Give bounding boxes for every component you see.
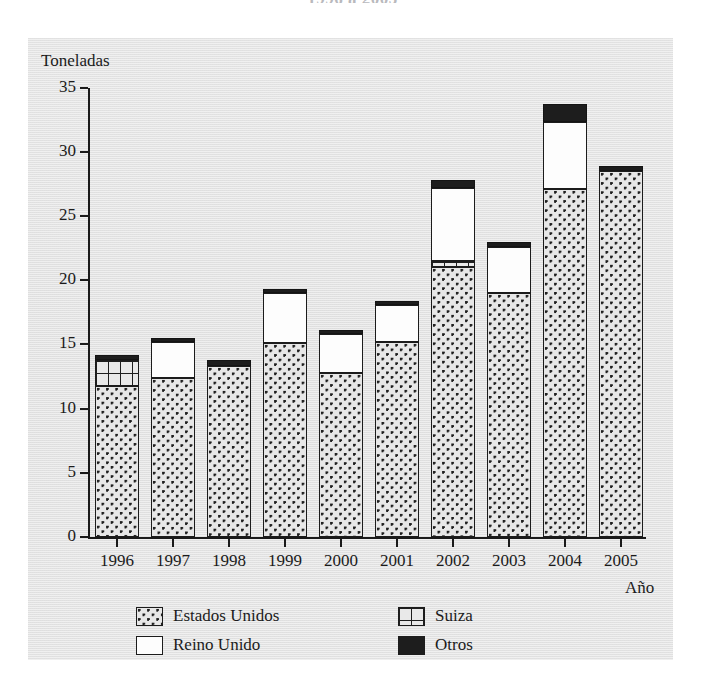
bar-segment-reino-unido [487,247,531,293]
bar-segment-otros [207,360,251,366]
chart-legend: Estados UnidosSuizaReino UnidoOtros [136,606,616,662]
bar-segment-otros [599,166,643,171]
legend-swatch-solid-icon [136,636,163,655]
bar-segment-reino-unido [263,293,307,343]
bar-segment-reino-unido [319,334,363,373]
bar-segment-otros [543,104,587,122]
bar-2002 [431,0,475,537]
bar-segment-otros [263,289,307,293]
bar-1999 [263,0,307,537]
legend-label: Reino Unido [173,635,260,655]
bar-segment-reino-unido [543,122,587,189]
legend-label: Otros [435,635,473,655]
bar-segment-estados-unidos [375,342,419,537]
scanned-page: 1996 a 2005 Toneladas Año 05101520253035… [0,0,705,691]
legend-swatch-grid-icon [398,607,425,626]
bar-segment-suiza [95,360,139,386]
bars-layer [0,0,705,691]
bar-segment-estados-unidos [431,267,475,537]
legend-item-suiza[interactable]: Suiza [398,606,473,626]
bar-segment-estados-unidos [95,386,139,538]
bar-segment-reino-unido [375,305,419,342]
legend-label: Estados Unidos [173,606,279,626]
bar-1996 [95,0,139,537]
legend-item-otros[interactable]: Otros [398,635,473,655]
bar-segment-otros [375,301,419,305]
legend-swatch-solid-icon [398,636,425,655]
bar-segment-otros [487,242,531,247]
bar-segment-otros [151,338,195,342]
legend-label: Suiza [435,606,473,626]
legend-item-reino-unido[interactable]: Reino Unido [136,635,260,655]
bar-segment-reino-unido [151,342,195,378]
bar-2005 [599,0,643,537]
bar-segment-otros [95,355,139,360]
bar-segment-estados-unidos [319,373,363,537]
bar-2003 [487,0,531,537]
bar-1997 [151,0,195,537]
bar-2000 [319,0,363,537]
bar-segment-reino-unido [431,188,475,261]
bar-segment-estados-unidos [263,343,307,537]
bar-segment-estados-unidos [543,189,587,537]
bar-segment-estados-unidos [151,378,195,537]
legend-item-estados-unidos[interactable]: Estados Unidos [136,606,279,626]
bar-segment-estados-unidos [599,171,643,537]
bar-1998 [207,0,251,537]
bar-segment-estados-unidos [207,366,251,537]
bar-segment-estados-unidos [487,293,531,537]
bar-2001 [375,0,419,537]
legend-swatch-dotted-icon [136,607,163,626]
bar-2004 [543,0,587,537]
bar-segment-otros [431,180,475,188]
bar-segment-otros [319,330,363,334]
bar-segment-suiza [431,261,475,267]
